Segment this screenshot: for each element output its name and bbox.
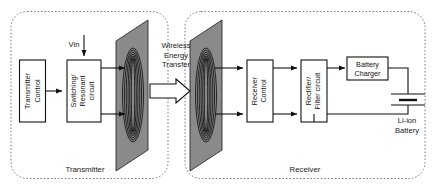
wireless-power-transfer-diagram: Transmitter Control Switching/ Resonant … [0,0,435,194]
receiver-plane-group [190,20,222,171]
receiver-control-block: Receiver Control [247,60,273,122]
receiver-control-label-line2: Control [259,79,268,103]
receiver-section-label: Receiver [290,165,321,174]
battery-symbol [391,94,425,105]
battery-charger-label-line2: Charger [355,69,382,78]
wireless-energy-transfer-arrow [150,79,190,103]
transmitter-control-label-line1: Transmitter [23,72,32,109]
rectifier-filter-label-line2: Filter circuit [313,73,322,110]
transfer-label-line2: Energy [164,51,188,60]
li-ion-battery-label: Li-ion Battery [395,116,419,135]
battery-label-line2: Battery [395,126,419,135]
transmitter-control-label-line2: Control [33,79,42,103]
rectifier-filter-circuit-block: Rectifier/ Filter circuit [301,60,327,122]
battery-label-line1: Li-ion [398,116,417,125]
transmitter-control-block: Transmitter Control [20,60,46,122]
rectifier-filter-label-line1: Rectifier/ [304,77,313,105]
switching-resonant-label-line1: Switching/ [69,75,78,108]
diagram-canvas: Transmitter Control Switching/ Resonant … [0,0,435,194]
battery-charger-label-line1: Battery [356,60,379,69]
receiver-control-label-line1: Receiver [250,76,259,105]
vin-label: Vin [69,40,80,49]
transfer-label-line3: Transfer [162,60,190,69]
switching-resonant-label-line3: circuit [87,82,96,101]
transmitter-section-label: Transmitter [65,165,105,174]
switching-resonant-label-line2: Resonant [78,76,87,107]
switching-resonant-circuit-block: Switching/ Resonant circuit [67,60,101,122]
receiver-plane [190,20,222,171]
battery-charger-block: Battery Charger [347,57,388,80]
transmitter-plane-group [116,20,148,171]
transfer-label-line1: Wireless [161,41,190,50]
vin-input: Vin [69,35,84,56]
wireless-energy-transfer-label: Wireless Energy Transfer [161,41,190,69]
